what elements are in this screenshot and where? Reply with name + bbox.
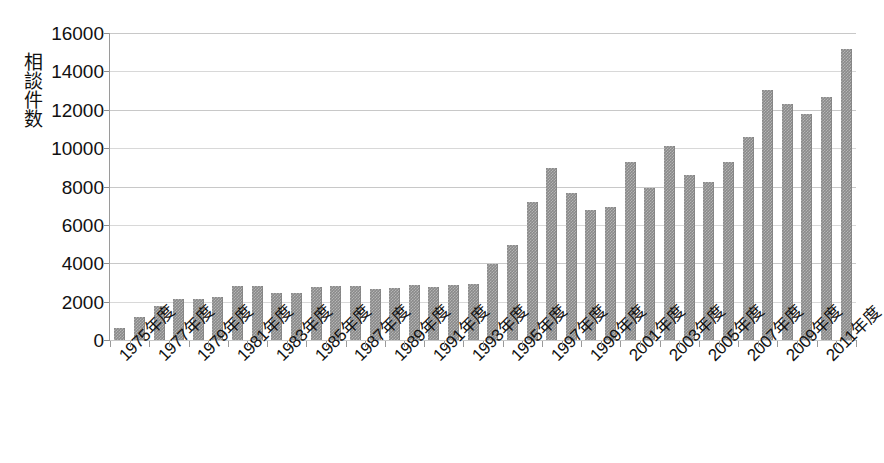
x-axis-tick-mark bbox=[601, 341, 602, 347]
x-axis-tick-mark bbox=[365, 341, 366, 347]
x-axis-tick-mark bbox=[404, 341, 405, 347]
x-axis-tick-mark bbox=[267, 341, 268, 347]
x-axis-tick-mark bbox=[640, 341, 641, 347]
x-axis-tick-mark bbox=[562, 341, 563, 347]
x-axis-tick-mark bbox=[483, 341, 484, 347]
x-axis-tick-mark bbox=[679, 341, 680, 347]
x-axis-tick-mark bbox=[424, 341, 425, 347]
x-axis-tick-mark bbox=[287, 341, 288, 347]
x-axis-tick-mark bbox=[581, 341, 582, 347]
x-axis-tick-mark bbox=[817, 341, 818, 347]
x-axis-tick-mark bbox=[444, 341, 445, 347]
x-axis-tick-mark bbox=[130, 341, 131, 347]
x-axis-tick-mark bbox=[189, 341, 190, 347]
x-axis-tick-mark bbox=[542, 341, 543, 347]
x-axis-tick-mark bbox=[660, 341, 661, 347]
x-axis-tick-mark bbox=[836, 341, 837, 347]
x-axis-tick-mark bbox=[758, 341, 759, 347]
x-axis-tick-mark bbox=[522, 341, 523, 347]
x-axis-tick-mark bbox=[797, 341, 798, 347]
x-axis-tick-mark bbox=[503, 341, 504, 347]
x-axis-tick-mark bbox=[777, 341, 778, 347]
x-axis-tick-mark bbox=[856, 341, 857, 347]
x-axis-tick-mark bbox=[326, 341, 327, 347]
x-axis-tick-mark bbox=[208, 341, 209, 347]
x-axis-tick-mark bbox=[149, 341, 150, 347]
x-axis-tick-mark bbox=[738, 341, 739, 347]
x-axis-tick-mark bbox=[699, 341, 700, 347]
x-axis-tick-mark bbox=[228, 341, 229, 347]
x-axis-tick-mark bbox=[463, 341, 464, 347]
x-axis-tick-mark bbox=[719, 341, 720, 347]
x-axis-tick-mark bbox=[620, 341, 621, 347]
x-axis-tick-mark bbox=[169, 341, 170, 347]
x-axis-tick-mark bbox=[247, 341, 248, 347]
x-axis-tick-mark bbox=[306, 341, 307, 347]
x-axis-tick-mark bbox=[385, 341, 386, 347]
x-axis-tick-mark bbox=[346, 341, 347, 347]
x-axis-tick-mark bbox=[110, 341, 111, 347]
